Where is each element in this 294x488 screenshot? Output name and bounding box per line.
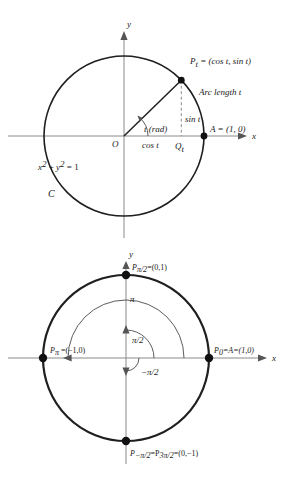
p-pi-coords: =(−1,0): [59, 346, 86, 355]
x-axis-arrowhead-bottom: [258, 354, 267, 361]
p-half-pi-coords: =(0,1): [147, 263, 167, 272]
point-a-marker: [201, 133, 208, 140]
p-neg-half-pi-coords: =(0,−1): [174, 449, 199, 458]
arc-neg-half-pi-label: −π/2: [141, 367, 159, 377]
point-p-neg-half-pi-label: P−π/2=P3π/2=(0,−1): [129, 449, 198, 460]
arc-half-pi-label: π/2: [132, 335, 144, 345]
arc-neg-half-pi-arrowhead: [122, 367, 129, 376]
y-axis-top: y: [120, 19, 131, 238]
angle-t-rad-label: t (rad): [144, 124, 167, 134]
point-p-neg-half-pi-marker: [122, 437, 130, 445]
point-qt-subscript: t: [182, 144, 185, 154]
x-axis-label-top: x: [251, 131, 256, 141]
y-axis-label-top: y: [126, 19, 131, 29]
sin-t-label: sin t: [185, 114, 201, 124]
point-pt-coords: = (cos t, sin t): [198, 56, 251, 66]
p-3-half-pi-subscript: 3π/2: [159, 451, 174, 460]
cos-t-label: cos t: [142, 140, 159, 150]
point-p-pi-label: Pπ =(−1,0): [49, 346, 86, 357]
p0-coords: =A=(1,0): [223, 346, 254, 355]
p-half-pi-subscript: π/2: [137, 265, 147, 274]
arc-pi-label: π: [130, 294, 135, 304]
x-axis-label-bottom: x: [271, 353, 276, 363]
point-p-half-pi-label: Pπ/2=(0,1): [131, 263, 167, 274]
y-axis-label-bottom: y: [128, 249, 133, 259]
point-p0-marker: [205, 354, 213, 362]
unit-circle-diagram-bottom: x y Pπ/2=(0,1) Pπ =(−1,0): [0, 244, 294, 488]
arc-pi-arrowhead: [63, 354, 72, 361]
figure-root: x y Pt = (cos t, sin t) Arc length t sin…: [0, 0, 294, 488]
equation-rhs: = 1: [65, 162, 79, 172]
y-axis-bottom: y: [122, 249, 133, 464]
point-a-label: A = (1, 0): [209, 124, 245, 134]
arc-half-pi-arrowhead: [122, 325, 129, 334]
curve-name-label: C: [48, 188, 55, 199]
y-axis-arrowhead-bottom: [122, 261, 129, 269]
unit-circle-diagram-top: x y Pt = (cos t, sin t) Arc length t sin…: [0, 0, 294, 244]
origin-label-top: O: [112, 139, 119, 149]
point-pt-marker: [178, 77, 185, 84]
point-p-half-pi-marker: [122, 271, 130, 279]
point-pt-label: Pt = (cos t, sin t): [189, 56, 251, 69]
point-p0-label: P0=A=(1,0): [213, 346, 254, 357]
point-qt-label: Qt: [175, 141, 185, 154]
p-neg-half-pi-subscript: −π/2: [135, 451, 151, 460]
point-p-pi-marker: [39, 354, 47, 362]
circle-equation-label: x2 + y2 = 1: [37, 159, 79, 173]
y-axis-arrowhead-top: [120, 31, 127, 40]
equation-plus: +: [47, 162, 57, 172]
arc-length-label: Arc length t: [198, 87, 242, 97]
